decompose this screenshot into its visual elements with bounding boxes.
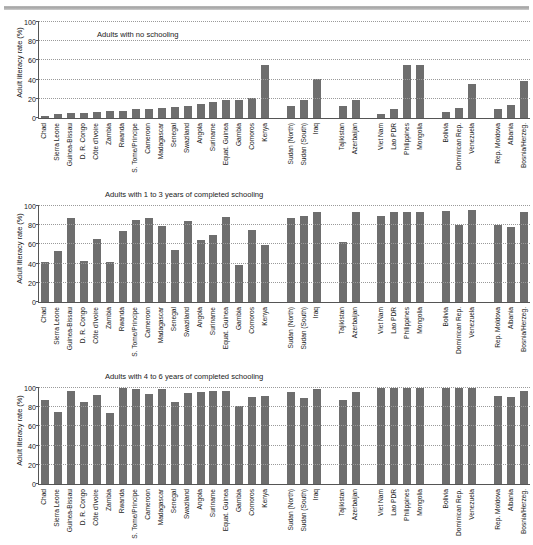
bar[interactable] (246, 388, 259, 484)
bar[interactable] (388, 206, 401, 302)
bar[interactable] (517, 22, 530, 118)
bar[interactable] (91, 388, 104, 484)
bar[interactable] (504, 22, 517, 118)
bar[interactable] (129, 206, 142, 302)
bar[interactable] (517, 388, 530, 484)
bar[interactable] (375, 22, 388, 118)
bar[interactable] (440, 206, 453, 302)
bar[interactable] (207, 388, 220, 484)
bar[interactable] (65, 206, 78, 302)
bar[interactable] (285, 206, 298, 302)
bar[interactable] (233, 22, 246, 118)
bar[interactable] (117, 388, 130, 484)
bar[interactable] (168, 388, 181, 484)
bar[interactable] (504, 206, 517, 302)
bar[interactable] (39, 22, 52, 118)
bar[interactable] (233, 206, 246, 302)
bar[interactable] (168, 206, 181, 302)
bar[interactable] (104, 206, 117, 302)
bar[interactable] (181, 206, 194, 302)
bar[interactable] (297, 206, 310, 302)
bar[interactable] (349, 22, 362, 118)
bar[interactable] (310, 22, 323, 118)
bar[interactable] (453, 206, 466, 302)
bar[interactable] (246, 206, 259, 302)
bar[interactable] (375, 388, 388, 484)
bar[interactable] (117, 206, 130, 302)
bar[interactable] (491, 206, 504, 302)
bar[interactable] (310, 206, 323, 302)
bar[interactable] (65, 388, 78, 484)
bar[interactable] (78, 206, 91, 302)
bar[interactable] (117, 22, 130, 118)
bar[interactable] (259, 22, 272, 118)
bar[interactable] (336, 388, 349, 484)
bar[interactable] (207, 22, 220, 118)
bar[interactable] (297, 22, 310, 118)
bar[interactable] (194, 22, 207, 118)
bar[interactable] (181, 388, 194, 484)
bar[interactable] (39, 206, 52, 302)
bar[interactable] (388, 388, 401, 484)
bar[interactable] (181, 22, 194, 118)
bar[interactable] (142, 388, 155, 484)
bar[interactable] (297, 388, 310, 484)
bar[interactable] (78, 22, 91, 118)
bar[interactable] (453, 388, 466, 484)
bar[interactable] (155, 206, 168, 302)
bar[interactable] (414, 388, 427, 484)
bar[interactable] (220, 22, 233, 118)
bar[interactable] (194, 388, 207, 484)
bar[interactable] (414, 22, 427, 118)
bar[interactable] (401, 388, 414, 484)
bar[interactable] (104, 388, 117, 484)
bar[interactable] (220, 206, 233, 302)
bar[interactable] (220, 388, 233, 484)
bar[interactable] (401, 206, 414, 302)
bar[interactable] (465, 206, 478, 302)
bar[interactable] (168, 22, 181, 118)
bar[interactable] (336, 206, 349, 302)
bar[interactable] (349, 388, 362, 484)
bar[interactable] (349, 206, 362, 302)
bar[interactable] (155, 388, 168, 484)
bar[interactable] (414, 206, 427, 302)
bar[interactable] (129, 388, 142, 484)
bar[interactable] (246, 22, 259, 118)
bar[interactable] (39, 388, 52, 484)
bar[interactable] (517, 206, 530, 302)
bar[interactable] (401, 22, 414, 118)
bar[interactable] (375, 206, 388, 302)
bar[interactable] (233, 388, 246, 484)
bar[interactable] (194, 206, 207, 302)
bar[interactable] (207, 206, 220, 302)
bar[interactable] (52, 388, 65, 484)
bar[interactable] (259, 388, 272, 484)
bar[interactable] (491, 388, 504, 484)
bar[interactable] (504, 388, 517, 484)
bar[interactable] (440, 22, 453, 118)
bar[interactable] (465, 388, 478, 484)
bar[interactable] (91, 22, 104, 118)
bar[interactable] (104, 22, 117, 118)
bar[interactable] (78, 388, 91, 484)
bar[interactable] (142, 206, 155, 302)
bar[interactable] (129, 22, 142, 118)
bar[interactable] (453, 22, 466, 118)
bar[interactable] (491, 22, 504, 118)
bar[interactable] (259, 206, 272, 302)
bar[interactable] (285, 22, 298, 118)
bar[interactable] (52, 22, 65, 118)
bar[interactable] (440, 388, 453, 484)
bar[interactable] (155, 22, 168, 118)
bar[interactable] (65, 22, 78, 118)
bar[interactable] (142, 22, 155, 118)
bar[interactable] (91, 206, 104, 302)
bar[interactable] (285, 388, 298, 484)
bar[interactable] (336, 22, 349, 118)
bar[interactable] (388, 22, 401, 118)
bar[interactable] (465, 22, 478, 118)
x-axis-label-text: Azerbaijan (352, 307, 359, 338)
bar[interactable] (310, 388, 323, 484)
bar[interactable] (52, 206, 65, 302)
